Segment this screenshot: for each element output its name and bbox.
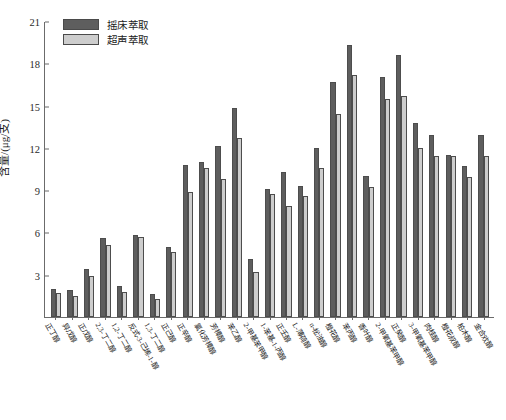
x-tick-mark — [286, 317, 287, 320]
bar-ultrasonic — [352, 75, 357, 317]
x-tick-mark — [401, 317, 402, 320]
bar-group — [410, 22, 426, 317]
x-tick-mark — [204, 317, 205, 320]
legend-item-ultrasonic: 超声萃取 — [63, 33, 148, 46]
x-tick-mark — [270, 317, 271, 320]
x-tick-mark — [467, 317, 468, 320]
x-tick-mark — [88, 317, 89, 320]
y-tick-label: 21 — [30, 17, 46, 28]
bar-group — [327, 22, 343, 317]
x-tick-mark — [220, 317, 221, 320]
legend-swatch-ultrasonic — [63, 34, 99, 45]
x-tick-mark — [352, 317, 353, 320]
y-tick-label: 18 — [30, 59, 46, 70]
bar-ultrasonic — [237, 138, 242, 317]
y-axis-label: 含量/(μg/支) — [0, 119, 11, 177]
bar-ultrasonic — [451, 156, 456, 317]
x-tick-mark — [484, 317, 485, 320]
x-tick-mark — [237, 317, 238, 320]
bar-ultrasonic — [155, 299, 160, 317]
bar-group — [48, 22, 64, 317]
x-tick-mark — [385, 317, 386, 320]
bar-ultrasonic — [122, 292, 127, 317]
bar-ultrasonic — [336, 114, 341, 317]
bar-group — [278, 22, 294, 317]
x-tick-mark — [418, 317, 419, 320]
x-tick-label: 苯乙醇 — [225, 320, 245, 344]
y-tick-label: 3 — [35, 270, 45, 281]
bar-group — [163, 22, 179, 317]
bar-ultrasonic — [188, 192, 193, 317]
bar-ultrasonic — [286, 206, 291, 317]
chart-figure: 含量/(μg/支) 21181512963 摇床萃取 超声萃取 正丁醇异戊醇正戊… — [0, 0, 506, 420]
bar-ultrasonic — [138, 237, 143, 317]
bar-group — [229, 22, 245, 317]
x-tick-mark — [121, 317, 122, 320]
x-tick-mark — [171, 317, 172, 320]
bar-ultrasonic — [467, 177, 472, 317]
x-tick-mark — [105, 317, 106, 320]
x-tick-label: 正丁醇 — [44, 320, 64, 344]
bar-ultrasonic — [204, 168, 209, 317]
x-tick-mark — [55, 317, 56, 320]
bar-ultrasonic — [221, 179, 226, 317]
x-tick-mark — [72, 317, 73, 320]
bar-ultrasonic — [270, 194, 275, 317]
x-tick-mark — [319, 317, 320, 320]
bar-group — [245, 22, 261, 317]
x-tick-mark — [434, 317, 435, 320]
bar-ultrasonic — [369, 187, 374, 317]
y-tick-label: 9 — [35, 186, 45, 197]
x-tick-label: 正戊醇 — [77, 320, 97, 344]
bar-group — [262, 22, 278, 317]
y-tick-label: 6 — [35, 228, 45, 239]
x-tick-mark — [154, 317, 155, 320]
bar-group — [344, 22, 360, 317]
bar-group — [97, 22, 113, 317]
y-tick-label: 15 — [30, 101, 46, 112]
bar-group — [212, 22, 228, 317]
bar-group — [426, 22, 442, 317]
legend-label-shaker: 摇床萃取 — [107, 17, 148, 32]
x-tick-mark — [302, 317, 303, 320]
legend-item-shaker: 摇床萃取 — [63, 18, 148, 31]
x-tick-label: 香叶醇 — [357, 320, 377, 344]
bar-ultrasonic — [319, 168, 324, 317]
bar-group — [64, 22, 80, 317]
x-tick-mark — [368, 317, 369, 320]
x-tick-mark — [138, 317, 139, 320]
bar-ultrasonic — [418, 148, 423, 317]
bar-group — [443, 22, 459, 317]
plot-area: 21181512963 — [44, 22, 494, 318]
bar-ultrasonic — [106, 245, 111, 317]
bar-group — [114, 22, 130, 317]
x-tick-mark — [253, 317, 254, 320]
legend-label-ultrasonic: 超声萃取 — [107, 32, 148, 47]
bar-ultrasonic — [303, 196, 308, 317]
bar-group — [360, 22, 376, 317]
bar-ultrasonic — [56, 293, 61, 317]
bar-ultrasonic — [385, 99, 390, 317]
x-tick-mark — [451, 317, 452, 320]
bar-group — [130, 22, 146, 317]
x-tick-mark — [335, 317, 336, 320]
legend: 摇床萃取 超声萃取 — [63, 18, 148, 48]
bar-group — [393, 22, 409, 317]
x-tick-label: 金合欢醇 — [472, 320, 496, 350]
bar-series-container — [45, 22, 494, 317]
bar-ultrasonic — [253, 272, 258, 317]
bar-group — [475, 22, 491, 317]
bar-ultrasonic — [434, 156, 439, 317]
bar-group — [147, 22, 163, 317]
x-tick-mark — [187, 317, 188, 320]
x-tick-label: 正辛醇 — [176, 320, 196, 344]
figure-caption — [0, 412, 506, 420]
bar-group — [81, 22, 97, 317]
bar-group — [295, 22, 311, 317]
bar-ultrasonic — [171, 252, 176, 317]
bar-ultrasonic — [401, 96, 406, 317]
bar-group — [377, 22, 393, 317]
bar-ultrasonic — [484, 156, 489, 317]
y-tick-label: 12 — [30, 143, 46, 154]
x-axis-labels: 正丁醇异戊醇正戊醇2,3-丁二醇1,2-丁二醇反式-3-己烯-1-醇1,3-丁二… — [44, 320, 494, 416]
